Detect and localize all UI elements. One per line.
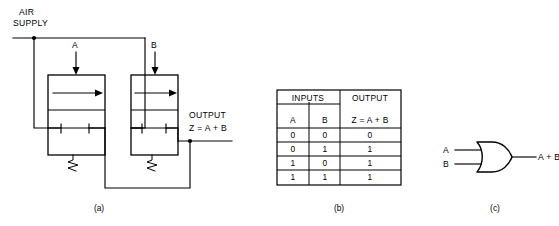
table-row: 0 — [323, 158, 328, 168]
output-label-line1: OUTPUT — [189, 110, 227, 120]
valve-a-spring — [68, 155, 78, 171]
truth-table-col-header-a: A — [290, 115, 296, 125]
figure-svg: AIR SUPPLY — [0, 0, 559, 226]
or-gate-input-label-b: B — [443, 159, 449, 169]
table-row: 1 — [368, 158, 373, 168]
valve-b: B — [131, 40, 178, 171]
valve-a: A — [48, 40, 105, 171]
output-junction-dot — [188, 139, 192, 143]
air-supply-label-line1: AIR — [19, 7, 34, 17]
panel-truth-table: INPUTS OUTPUT A B Z = A + B 0 0 0 0 1 1 … — [277, 90, 401, 213]
caption-b: (b) — [334, 203, 344, 213]
caption-c: (c) — [490, 203, 500, 213]
table-row: 1 — [323, 144, 328, 154]
valve-b-body — [131, 75, 178, 155]
air-supply-label-line2: SUPPLY — [13, 18, 48, 28]
or-gate-output-label: A + B — [538, 152, 559, 162]
table-row: 1 — [323, 172, 328, 182]
table-row: 1 — [368, 144, 373, 154]
truth-table-group-header-inputs: INPUTS — [292, 93, 325, 103]
supply-branch-left — [34, 38, 48, 128]
valve-a-actuator-arrowhead — [73, 67, 80, 75]
valve-b-spring — [147, 155, 157, 171]
valve-a-flow-arrowhead — [95, 90, 103, 97]
panel-pneumatic-circuit: AIR SUPPLY — [13, 7, 232, 213]
table-row: 1 — [291, 158, 296, 168]
valve-a-body — [48, 75, 105, 155]
table-row: 1 — [291, 172, 296, 182]
caption-a: (a) — [94, 203, 104, 213]
or-gate-input-label-a: A — [443, 145, 449, 155]
input-a-label: A — [72, 40, 78, 50]
table-row: 0 — [291, 130, 296, 140]
truth-table-col-header-b: B — [322, 115, 328, 125]
table-row: 0 — [368, 130, 373, 140]
supply-branch-right — [131, 38, 145, 128]
figure-root: AIR SUPPLY — [0, 0, 559, 226]
table-row: 0 — [291, 144, 296, 154]
truth-table-col-header-z: Z = A + B — [351, 115, 388, 125]
cross-connection-line — [105, 128, 190, 188]
valve-b-flow-arrowhead — [169, 90, 177, 97]
output-label-line2: Z = A + B — [189, 123, 227, 133]
or-gate-body — [477, 142, 512, 172]
table-row: 0 — [323, 130, 328, 140]
input-b-label: B — [151, 40, 157, 50]
truth-table-group-header-output: OUTPUT — [352, 93, 388, 103]
table-row: 1 — [368, 172, 373, 182]
panel-logic-symbol: A B A + B (c) — [443, 142, 559, 213]
valve-b-actuator-arrowhead — [152, 67, 159, 75]
